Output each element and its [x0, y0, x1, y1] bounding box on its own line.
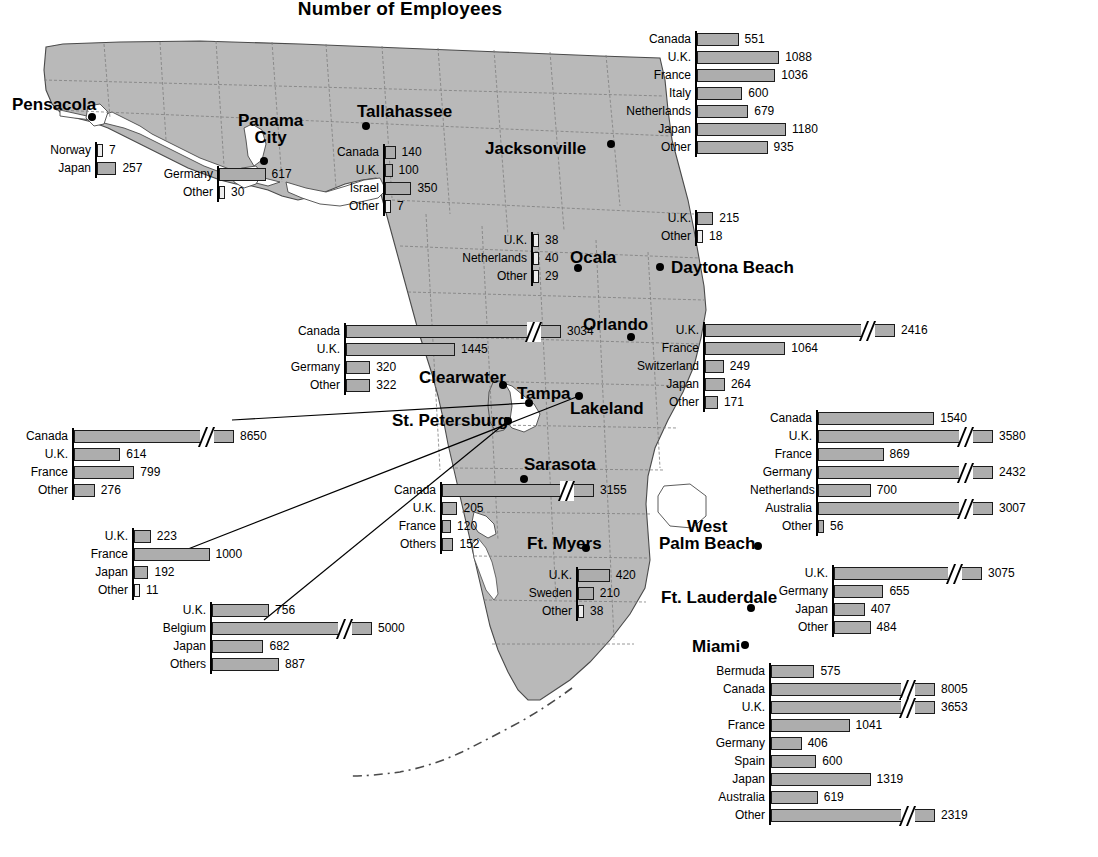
chart-category-label: Canada	[285, 323, 340, 340]
chart-bar-wrapper	[697, 212, 713, 225]
chart-bar-wrapper	[442, 520, 451, 533]
chart-bar	[134, 530, 151, 543]
chart-bar	[346, 379, 370, 392]
chart-bar	[134, 566, 148, 579]
chart-bar-wrapper	[834, 567, 982, 580]
chart-value-label: 264	[731, 376, 751, 393]
chart-bar-wrapper	[771, 719, 850, 732]
chart-category-label: France	[750, 446, 812, 463]
chart-value-label: 679	[754, 103, 774, 120]
chart-bar	[771, 701, 935, 714]
chart-value-label: 1036	[781, 67, 808, 84]
chart-category-label: Norway	[41, 142, 91, 159]
city-label-clearwater: Clearwater	[419, 369, 506, 387]
chart-bar	[705, 360, 724, 373]
chart-value-label: 120	[457, 518, 477, 535]
chart-category-label: Other	[766, 619, 828, 636]
chart-bar-wrapper	[346, 325, 561, 338]
chart-category-label: Israel	[331, 180, 379, 197]
chart-category-label: Germany	[766, 583, 828, 600]
chart-bar	[134, 584, 140, 597]
chart-category-label: Others	[384, 536, 436, 553]
chart-bar	[705, 324, 895, 337]
chart-category-label: Netherlands	[457, 250, 527, 267]
chart-bar-wrapper	[818, 484, 871, 497]
chart-value-label: 350	[417, 180, 437, 197]
chart-bar-wrapper	[818, 502, 993, 515]
chart-bar-wrapper	[834, 603, 865, 616]
chart-bar-wrapper	[818, 448, 884, 461]
chart-value-label: 257	[122, 160, 142, 177]
chart-category-label: Germany	[701, 735, 765, 752]
chart-bar	[705, 396, 718, 409]
chart-category-label: U.K.	[520, 567, 572, 584]
chart-value-label: 1041	[856, 717, 883, 734]
chart-bar	[74, 448, 120, 461]
chart-bar-wrapper	[533, 234, 539, 247]
chart-bar	[212, 658, 279, 671]
chart-category-label: Other	[649, 228, 691, 245]
chart-bar-wrapper	[771, 737, 802, 750]
chart-value-label: 30	[231, 184, 244, 201]
chart-bar-wrapper	[771, 809, 935, 822]
chart-value-label: 700	[877, 482, 897, 499]
city-dot-clearwater	[499, 381, 507, 389]
chart-bar	[697, 51, 779, 64]
chart-category-label: Japan	[41, 160, 91, 177]
chart-category-label: U.K.	[766, 565, 828, 582]
chart-bar-wrapper	[346, 361, 370, 374]
poster-canvas: Employment by Foreign-Owned Firms, 1986 …	[0, 0, 1098, 857]
chart-value-label: 3155	[600, 482, 627, 499]
page-title: Employment by Foreign-Owned Firms, 1986 …	[120, 0, 680, 18]
chart-bar-wrapper	[346, 379, 370, 392]
chart-category-label: Bermuda	[701, 663, 765, 680]
chart-bar-wrapper	[818, 520, 824, 533]
chart-bar	[97, 144, 103, 157]
chart-value-label: 3075	[988, 565, 1015, 582]
chart-bar	[818, 502, 993, 515]
chart-value-label: 18	[709, 228, 722, 245]
chart-bar-wrapper	[697, 141, 768, 154]
chart-category-label: Italy	[626, 85, 691, 102]
chart-category-label: Canada	[384, 482, 436, 499]
chart-bar-wrapper	[705, 396, 718, 409]
chart-category-label: Canada	[14, 428, 68, 445]
chart-bar	[697, 33, 739, 46]
chart-bar	[385, 200, 391, 213]
chart-value-label: 56	[830, 518, 843, 535]
chart-bar	[385, 146, 396, 159]
chart-value-label: 614	[126, 446, 146, 463]
chart-bar-wrapper	[818, 430, 993, 443]
city-label-ft-lauderdale: Ft. Lauderdale	[661, 589, 777, 607]
city-dot-daytona-beach	[656, 263, 664, 271]
chart-bar	[442, 538, 453, 551]
chart-category-label: U.K.	[331, 162, 379, 179]
chart-bar	[834, 621, 871, 634]
chart-bar	[818, 520, 824, 533]
city-label-line: Pensacola	[12, 96, 96, 114]
chart-value-label: 38	[545, 232, 558, 249]
chart-bar-wrapper	[212, 640, 263, 653]
chart-category-label: U.K.	[457, 232, 527, 249]
chart-category-label: Canada	[750, 410, 812, 427]
chart-value-label: 887	[285, 656, 305, 673]
chart-bar	[442, 502, 457, 515]
chart-bar-wrapper	[697, 51, 779, 64]
chart-bar	[578, 587, 594, 600]
chart-bar	[771, 719, 850, 732]
chart-bar	[697, 141, 768, 154]
chart-value-label: 1540	[940, 410, 967, 427]
chart-category-label: France	[14, 464, 68, 481]
chart-value-label: 619	[824, 789, 844, 806]
chart-bar	[771, 665, 814, 678]
chart-category-label: France	[701, 717, 765, 734]
city-dot-sarasota	[520, 475, 528, 483]
chart-bar	[346, 343, 455, 356]
chart-bar-wrapper	[834, 585, 883, 598]
city-label-line: Ft. Lauderdale	[661, 589, 777, 607]
city-dot-lakeland	[575, 392, 583, 400]
chart-value-label: 140	[402, 144, 422, 161]
chart-value-label: 8650	[240, 428, 267, 445]
chart-category-label: Netherlands	[750, 482, 812, 499]
chart-category-label: Australia	[701, 789, 765, 806]
